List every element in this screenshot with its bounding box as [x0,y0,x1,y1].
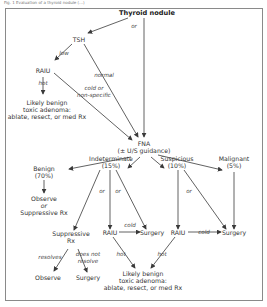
line: (5%) [219,162,250,169]
label-normal: normal [94,72,114,79]
line: Suppressive [52,230,90,237]
node-raiu-top: RAIU [36,67,51,74]
edge-indet-suppressive [74,170,100,230]
node-surgery-bottom: Surgery [76,274,100,281]
node-surgery-indeterminate: Surgery [140,229,164,236]
line: Malignant [219,155,250,162]
label-cold-indet: cold [124,222,136,229]
line: Indeterminate [89,155,133,162]
line: (± U/S guidance) [118,147,171,154]
node-observe-or-suppressive: Observe or Suppressive Rx [20,195,67,217]
line: Benign [33,165,55,172]
label-or-top: or [131,23,137,30]
line: toxic adenoma: [104,277,182,284]
line: ablate, resect, or med Rx [104,284,182,291]
node-observe: Observe [35,274,61,281]
label-does-not-resolve: does not resolve [76,251,100,264]
label-cold-susp: cold [198,229,210,236]
edge-indet-surgery [116,170,146,229]
label-hot-indet: hot [116,251,125,258]
node-fna: FNA (± U/S guidance) [118,140,171,154]
label-cold-or-nonspecific: cold or non-specific [77,85,111,98]
node-benign-toxic-top: Likely benign toxic adenoma: ablate, res… [8,99,86,121]
node-surgery-right: Surgery [222,229,246,236]
line: Observe [20,195,67,202]
line: (15%) [89,162,133,169]
label-resolves: resolves [38,254,61,261]
node-raiu-indeterminate: RAIU [103,229,118,236]
label-or-indet-2: or [115,188,121,195]
line: cold or [77,85,111,92]
line: Rx [52,237,90,244]
line: Likely benign [8,99,86,106]
node-indeterminate: Indeterminate (15%) [89,155,133,169]
label-or-indet-1: or [99,188,105,195]
line: (70%) [33,172,55,179]
line: does not [76,251,100,258]
node-raiu-suspicious: RAIU [171,229,186,236]
node-tsh: TSH [73,36,85,43]
node-benign: Benign (70%) [33,165,55,179]
node-benign-toxic-bottom: Likely benign toxic adenoma: ablate, res… [104,270,182,292]
node-suppressive-rx: Suppressive Rx [52,230,90,244]
line: Likely benign [104,270,182,277]
line: ablate, resect, or med Rx [8,113,86,120]
line: Suppressive Rx [20,209,67,216]
line: Suspicious [161,155,194,162]
node-malignant: Malignant (5%) [219,155,250,169]
line: non-specific [77,92,111,99]
label-hot-susp: hot [157,251,166,258]
edge-nodule-tsh [88,18,128,33]
label-low: low [59,50,69,57]
node-thyroid-nodule: Thyroid nodule [119,10,175,17]
edge-susp-surgery [184,170,226,229]
line: (10%) [161,162,194,169]
node-suspicious: Suspicious (10%) [161,155,194,169]
line: FNA [118,140,171,147]
label-hot-top: hot [38,80,47,87]
label-or-susp: or [186,188,192,195]
line: or [20,202,67,209]
line: toxic adenoma: [8,106,86,113]
line: resolve [76,258,100,265]
